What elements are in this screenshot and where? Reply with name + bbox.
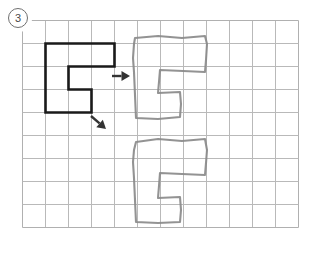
worksheet-page: 3 xyxy=(0,0,319,256)
shape-layer xyxy=(46,36,208,223)
grid-layer xyxy=(23,21,299,228)
right-arrow-head xyxy=(122,71,131,81)
problem-number-badge: 3 xyxy=(6,6,34,34)
diagonal-down-right-arrow-shaft xyxy=(91,116,100,123)
hand-drawn-shape-top xyxy=(133,36,207,119)
worksheet-canvas xyxy=(0,0,319,256)
reference-shape xyxy=(46,44,115,113)
arrow-layer xyxy=(91,71,130,129)
problem-number-label: 3 xyxy=(8,8,28,28)
